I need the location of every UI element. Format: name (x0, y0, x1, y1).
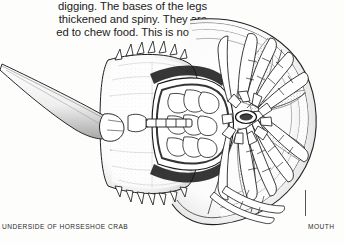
chelicera-tip (128, 114, 146, 131)
scanned-page: digging. The bases of the legs thickened… (0, 0, 344, 243)
caption-underside-of-horseshoe-crab: UNDERSIDE OF HORSESHOE CRAB (2, 223, 128, 230)
mouth-leader-line (305, 190, 306, 216)
horseshoe-crab-illustration (0, 0, 344, 243)
caption-mouth: MOUTH (308, 223, 334, 230)
